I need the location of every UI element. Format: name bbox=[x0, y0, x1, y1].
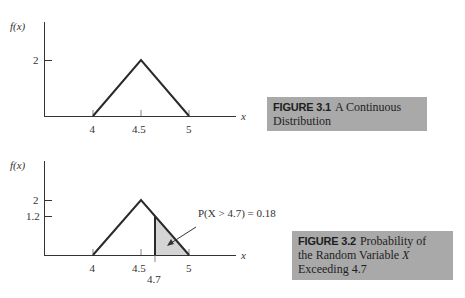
density-line bbox=[93, 60, 189, 116]
x-axis-label: x bbox=[240, 249, 246, 261]
annotation-arrow bbox=[171, 227, 196, 243]
x-tick-label: 5 bbox=[186, 123, 192, 135]
figure-3-1-caption: FIGURE 3.1A Continuous Distribution bbox=[267, 97, 427, 131]
x-tick-label: 4 bbox=[90, 123, 96, 135]
probability-annotation: P(X > 4.7) = 0.18 bbox=[198, 207, 276, 220]
x-axis-label: x bbox=[240, 110, 246, 122]
y-tick-label: 2 bbox=[33, 194, 39, 206]
x-tick-label: 4.5 bbox=[132, 262, 146, 274]
caption-text: the Random Variable bbox=[298, 248, 402, 262]
x-tick-label-4-7: 4.7 bbox=[147, 273, 161, 285]
figure-3-2-caption: FIGURE 3.2Probability of the Random Vari… bbox=[292, 231, 453, 280]
y-tick-label: 1.2 bbox=[26, 210, 40, 222]
figure-3-1-plot: f(x) 2 4 4.5 5 x bbox=[10, 20, 246, 135]
caption-variable: X bbox=[402, 248, 409, 262]
figure-label: FIGURE 3.1 bbox=[273, 101, 331, 113]
x-tick-label: 4.5 bbox=[132, 123, 146, 135]
caption-text: Probability of bbox=[360, 234, 426, 248]
caption-text: Exceeding 4.7 bbox=[298, 262, 367, 276]
x-tick-label: 5 bbox=[186, 262, 192, 274]
y-axis-label: f(x) bbox=[10, 20, 26, 33]
y-axis-label: f(x) bbox=[10, 159, 26, 172]
figure-label: FIGURE 3.2 bbox=[298, 235, 356, 247]
x-tick-label: 4 bbox=[90, 262, 96, 274]
figure-3-2-plot: f(x) 2 1.2 4 4.5 5 4.7 x P(X > 4.7) = 0.… bbox=[10, 159, 276, 285]
y-tick-label: 2 bbox=[33, 54, 39, 66]
